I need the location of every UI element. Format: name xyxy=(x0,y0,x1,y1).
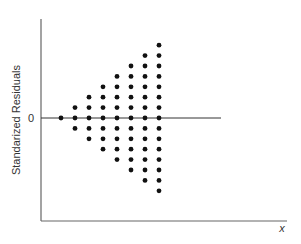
data-point xyxy=(143,136,148,141)
data-point xyxy=(157,95,162,100)
data-point xyxy=(129,105,134,110)
data-point xyxy=(115,84,120,89)
data-point xyxy=(129,74,134,79)
data-point xyxy=(115,74,120,79)
data-point xyxy=(157,84,162,89)
data-point xyxy=(157,126,162,131)
data-point xyxy=(115,157,120,162)
data-point xyxy=(87,126,92,131)
data-point xyxy=(129,126,134,131)
data-point xyxy=(115,136,120,141)
data-point xyxy=(73,105,78,110)
data-point xyxy=(157,116,162,121)
data-point xyxy=(59,116,64,121)
data-point xyxy=(157,53,162,58)
data-point xyxy=(87,136,92,141)
data-point xyxy=(129,95,134,100)
data-point xyxy=(157,188,162,193)
data-point xyxy=(115,126,120,131)
data-point xyxy=(143,84,148,89)
data-point xyxy=(157,178,162,183)
data-point xyxy=(143,105,148,110)
data-point xyxy=(157,43,162,48)
residual-plot: 0 Standarized Residuals x xyxy=(0,0,301,244)
data-point xyxy=(157,147,162,152)
data-point xyxy=(129,116,134,121)
data-point xyxy=(101,84,106,89)
data-point xyxy=(73,126,78,131)
data-point xyxy=(101,147,106,152)
data-point xyxy=(87,95,92,100)
data-point xyxy=(143,168,148,173)
data-point xyxy=(129,136,134,141)
y-tick-zero: 0 xyxy=(28,112,34,124)
data-point xyxy=(157,157,162,162)
data-point xyxy=(129,64,134,69)
data-point xyxy=(143,64,148,69)
data-point xyxy=(143,53,148,58)
data-point xyxy=(143,157,148,162)
data-point xyxy=(129,168,134,173)
data-point xyxy=(129,147,134,152)
data-point xyxy=(129,157,134,162)
data-point xyxy=(101,116,106,121)
x-axis-label: x xyxy=(278,222,285,234)
data-point xyxy=(157,168,162,173)
data-point xyxy=(157,64,162,69)
data-point xyxy=(143,116,148,121)
data-point xyxy=(115,147,120,152)
data-point xyxy=(143,126,148,131)
data-point xyxy=(115,116,120,121)
data-point xyxy=(157,105,162,110)
data-point xyxy=(101,126,106,131)
data-point xyxy=(101,136,106,141)
data-point xyxy=(101,105,106,110)
data-point xyxy=(143,74,148,79)
data-point xyxy=(87,105,92,110)
data-point xyxy=(73,116,78,121)
data-point xyxy=(157,136,162,141)
data-point xyxy=(129,84,134,89)
data-point xyxy=(143,95,148,100)
data-point xyxy=(101,95,106,100)
data-point xyxy=(115,95,120,100)
y-axis-label: Standarized Residuals xyxy=(10,64,22,175)
data-point xyxy=(143,147,148,152)
data-point xyxy=(87,116,92,121)
data-point xyxy=(115,105,120,110)
data-point xyxy=(143,178,148,183)
data-point xyxy=(157,74,162,79)
